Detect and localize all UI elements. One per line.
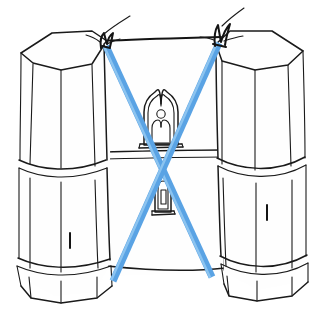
- drawing-canvas: Twin-tower masonry facade with diagonal …: [0, 0, 322, 322]
- right-tower: [214, 31, 308, 301]
- left-tower: [17, 31, 112, 303]
- facade-sketch: Twin-tower masonry facade with diagonal …: [0, 0, 322, 322]
- lower-window-sill-bottom: [152, 214, 175, 215]
